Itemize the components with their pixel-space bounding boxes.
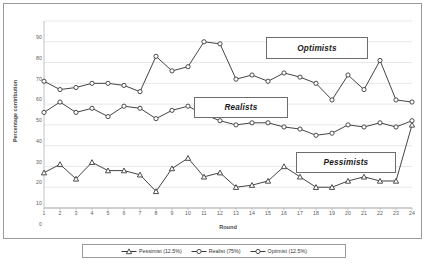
x-axis-tick-label: 3	[69, 211, 83, 216]
y-axis-tick-label: 90	[26, 35, 42, 40]
x-axis-tick-label: 2	[53, 211, 67, 216]
x-axis-tick-label: 14	[245, 211, 259, 216]
x-axis-tick-label: 16	[277, 211, 291, 216]
x-axis-tick-label: 6	[117, 211, 131, 216]
y-axis-tick-label: 10	[26, 201, 42, 206]
legend-item[interactable]: Pessimist (12.5%)	[121, 248, 182, 255]
x-axis-tick-label: 21	[357, 211, 371, 216]
x-axis-tick-label: 18	[309, 211, 323, 216]
x-axis-tick-label: 4	[85, 211, 99, 216]
chart-frame: Percentage contribution 0102030405060708…	[3, 3, 422, 239]
legend-item-label: Pessimist (12.5%)	[139, 248, 182, 254]
x-axis-tick-label: 9	[165, 211, 179, 216]
legend-item[interactable]: Realist (75%)	[191, 248, 241, 255]
line-chart: Percentage contribution 0102030405060708…	[0, 0, 425, 271]
y-axis-tick-label: 80	[26, 56, 42, 61]
legend-swatch-triangle-icon	[121, 248, 137, 255]
x-axis-tick-label: 15	[261, 211, 275, 216]
x-axis-tick-label: 1	[37, 211, 51, 216]
x-axis-tick-label: 22	[373, 211, 387, 216]
x-axis-title: Round	[44, 224, 412, 230]
chart-legend: Pessimist (12.5%)Realist (75%)Optimist (…	[82, 244, 346, 258]
y-axis-tick-label: 40	[26, 139, 42, 144]
x-axis-tick-label: 19	[325, 211, 339, 216]
legend-item-label: Realist (75%)	[209, 248, 241, 254]
y-axis-title: Percentage contribution	[12, 56, 18, 166]
x-axis-tick-label: 20	[341, 211, 355, 216]
legend-item[interactable]: Optimist (12.5%)	[250, 248, 307, 255]
x-axis-tick-label: 10	[181, 211, 195, 216]
x-axis-tick-label: 5	[101, 211, 115, 216]
y-axis-tick-label: 70	[26, 77, 42, 82]
x-axis-tick-label: 23	[389, 211, 403, 216]
x-axis-tick-label: 17	[293, 211, 307, 216]
x-axis-tick-label: 24	[405, 211, 419, 216]
x-axis-tick-label: 11	[197, 211, 211, 216]
annotation-realists: Realists	[194, 97, 288, 118]
x-axis-tick-label: 12	[213, 211, 227, 216]
x-axis-tick-label: 8	[149, 211, 163, 216]
y-axis-tick-label: 30	[26, 160, 42, 165]
x-axis-tick-label: 7	[133, 211, 147, 216]
annotation-optimists: Optimists	[266, 37, 368, 59]
x-axis-tick-labels: 123456789101112131415161718192021222324	[44, 211, 412, 221]
x-axis-tick-label: 13	[229, 211, 243, 216]
annotation-pessimists: Pessimists	[296, 152, 396, 173]
legend-swatch-circle-icon	[191, 248, 207, 255]
y-axis-tick-labels: 0102030405060708090	[22, 21, 42, 208]
y-axis-tick-label: 50	[26, 118, 42, 123]
legend-item-label: Optimist (12.5%)	[268, 248, 307, 254]
legend-swatch-circle-icon	[250, 248, 266, 255]
y-axis-tick-label: 0	[26, 222, 42, 227]
y-axis-tick-label: 20	[26, 180, 42, 185]
y-axis-tick-label: 60	[26, 97, 42, 102]
